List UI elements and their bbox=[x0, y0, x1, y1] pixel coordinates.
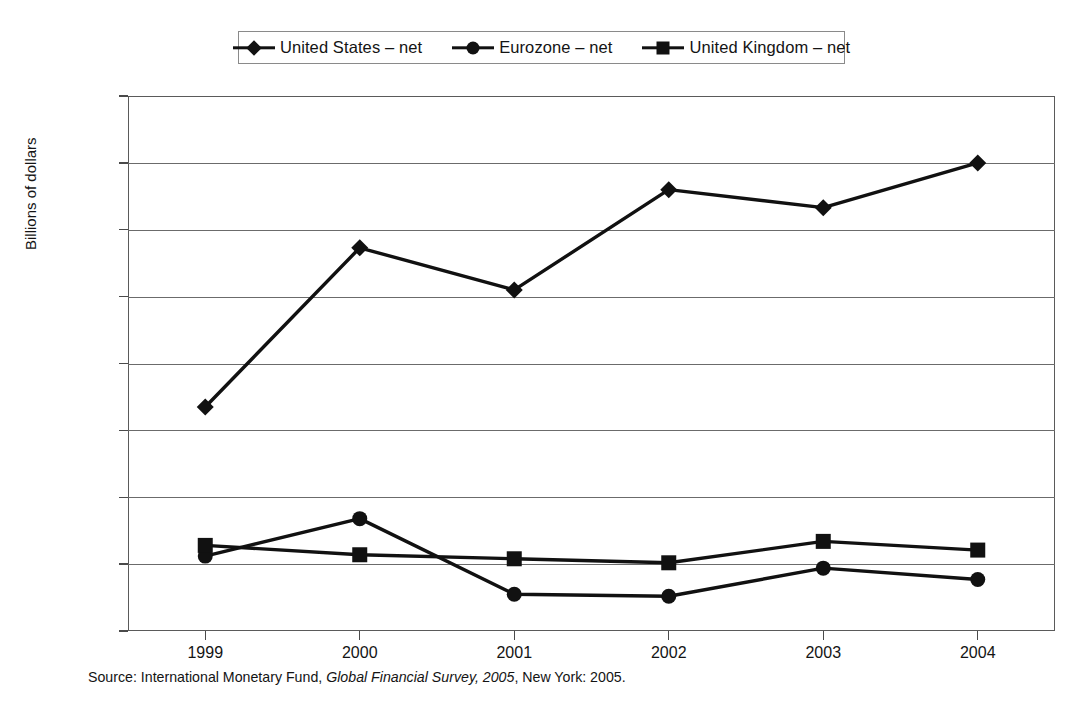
data-point-square bbox=[970, 543, 985, 558]
source-note: Source: International Monetary Fund, Glo… bbox=[88, 669, 626, 685]
data-point-diamond bbox=[969, 154, 986, 171]
x-tick-label: 2004 bbox=[960, 644, 996, 662]
data-point-diamond bbox=[506, 281, 523, 298]
x-tick-mark bbox=[205, 631, 206, 640]
data-point-circle bbox=[970, 572, 985, 587]
series-line bbox=[205, 163, 978, 407]
x-tick-mark bbox=[668, 631, 669, 640]
plot-area: 7006005004003002001000–100 1999200020012… bbox=[128, 96, 1055, 631]
legend-label-united-kingdom: United Kingdom – net bbox=[689, 38, 850, 57]
y-tick-mark bbox=[119, 162, 128, 163]
circle-marker-icon bbox=[452, 41, 494, 55]
data-point-square bbox=[352, 547, 367, 562]
diamond-marker-icon bbox=[233, 41, 275, 55]
y-tick-mark bbox=[119, 497, 128, 498]
x-tick-mark bbox=[514, 631, 515, 640]
data-point-circle bbox=[507, 587, 522, 602]
data-point-diamond bbox=[815, 199, 832, 216]
data-point-square bbox=[198, 538, 213, 553]
legend-label-eurozone: Eurozone – net bbox=[499, 38, 612, 57]
data-point-square bbox=[661, 555, 676, 570]
y-tick-mark bbox=[119, 430, 128, 431]
data-point-circle bbox=[661, 589, 676, 604]
data-point-diamond bbox=[660, 181, 677, 198]
chart-figure: United States – net Eurozone – net Unite… bbox=[0, 0, 1078, 715]
data-point-square bbox=[816, 534, 831, 549]
y-tick-mark bbox=[119, 95, 128, 96]
y-tick-mark bbox=[119, 296, 128, 297]
x-tick-mark bbox=[359, 631, 360, 640]
x-tick-label: 2003 bbox=[805, 644, 841, 662]
square-marker-icon bbox=[642, 41, 684, 55]
source-prefix: Source: International Monetary Fund, bbox=[88, 669, 326, 685]
x-tick-mark bbox=[823, 631, 824, 640]
y-tick-mark bbox=[119, 563, 128, 564]
source-suffix: , New York: 2005. bbox=[514, 669, 625, 685]
source-title: Global Financial Survey, 2005 bbox=[326, 669, 514, 685]
y-tick-mark bbox=[119, 630, 128, 631]
legend-item-eurozone: Eurozone – net bbox=[452, 38, 612, 57]
chart-legend: United States – net Eurozone – net Unite… bbox=[238, 31, 845, 64]
legend-item-united-states: United States – net bbox=[233, 38, 422, 57]
x-tick-label: 1999 bbox=[187, 644, 223, 662]
x-tick-label: 2001 bbox=[496, 644, 532, 662]
series-lines bbox=[128, 96, 1055, 631]
legend-item-united-kingdom: United Kingdom – net bbox=[642, 38, 850, 57]
y-tick-mark bbox=[119, 229, 128, 230]
legend-label-united-states: United States – net bbox=[280, 38, 422, 57]
series-line bbox=[205, 519, 978, 597]
data-point-square bbox=[507, 551, 522, 566]
data-point-circle bbox=[352, 511, 367, 526]
y-tick-mark bbox=[119, 363, 128, 364]
y-axis-title: Billions of dollars bbox=[22, 137, 39, 250]
x-tick-label: 2000 bbox=[342, 644, 378, 662]
data-point-circle bbox=[816, 561, 831, 576]
x-tick-mark bbox=[977, 631, 978, 640]
series-line bbox=[205, 541, 978, 562]
x-tick-label: 2002 bbox=[651, 644, 687, 662]
